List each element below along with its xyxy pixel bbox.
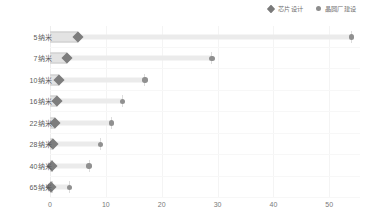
data-point-fab-construction[interactable]: [98, 142, 104, 148]
y-axis-label-4: 22纳米: [6, 118, 52, 128]
y-axis-label-1: 7纳米: [6, 53, 52, 63]
data-point-fab-construction[interactable]: [67, 185, 73, 191]
legend-item-fab-construction[interactable]: 晶圆厂建设: [316, 6, 356, 12]
x-axis: 01020304050: [0, 198, 370, 216]
connector-bar: [50, 34, 352, 39]
chart-row-inner: [50, 134, 360, 156]
y-axis-label-2: 10纳米: [6, 75, 52, 85]
chart-row[interactable]: [50, 91, 360, 113]
data-point-fab-construction[interactable]: [86, 163, 92, 169]
y-axis-label-3: 16纳米: [6, 96, 52, 106]
x-axis-tick-40: 40: [270, 201, 278, 208]
legend-item-chip-design[interactable]: 芯片设计: [268, 6, 303, 12]
data-point-fab-construction[interactable]: [349, 34, 355, 40]
x-axis-tick-10: 10: [102, 201, 110, 208]
data-point-fab-construction[interactable]: [209, 56, 215, 62]
chart-row[interactable]: [50, 112, 360, 134]
chart-row-inner: [50, 48, 360, 70]
chart-row[interactable]: [50, 155, 360, 177]
x-axis-tick-50: 50: [325, 201, 333, 208]
chart-row[interactable]: [50, 177, 360, 199]
y-axis-label-5: 28纳米: [6, 139, 52, 149]
x-axis-tick-20: 20: [158, 201, 166, 208]
x-axis-tick-30: 30: [214, 201, 222, 208]
y-axis-label-7: 65纳米: [6, 182, 52, 192]
chart-row-inner: [50, 112, 360, 134]
chart-row[interactable]: [50, 134, 360, 156]
data-point-fab-construction[interactable]: [142, 77, 148, 83]
legend-label-fab-construction: 晶圆厂建设: [325, 6, 356, 12]
connector-bar: [50, 56, 212, 61]
plot-area: [50, 26, 360, 198]
chart-row-inner: [50, 155, 360, 177]
chart-row-inner: [50, 91, 360, 113]
chart-row[interactable]: [50, 26, 360, 48]
chart-row-inner: [50, 26, 360, 48]
data-point-fab-construction[interactable]: [109, 120, 115, 126]
dumbbell-chart: 芯片设计 晶圆厂建设 5纳米7纳米10纳米16纳米22纳米28纳米40纳米65纳…: [0, 0, 370, 221]
diamond-marker-icon: [267, 5, 275, 13]
legend-label-chip-design: 芯片设计: [278, 6, 303, 12]
y-axis-label-6: 40纳米: [6, 161, 52, 171]
chart-row-inner: [50, 69, 360, 91]
chart-row-inner: [50, 177, 360, 199]
x-axis-tick-0: 0: [48, 201, 52, 208]
y-axis-label-0: 5纳米: [6, 32, 52, 42]
chart-row[interactable]: [50, 69, 360, 91]
circle-marker-icon: [316, 6, 321, 11]
chart-row[interactable]: [50, 48, 360, 70]
data-point-fab-construction[interactable]: [120, 99, 126, 105]
chart-legend: 芯片设计 晶圆厂建设: [268, 2, 356, 16]
